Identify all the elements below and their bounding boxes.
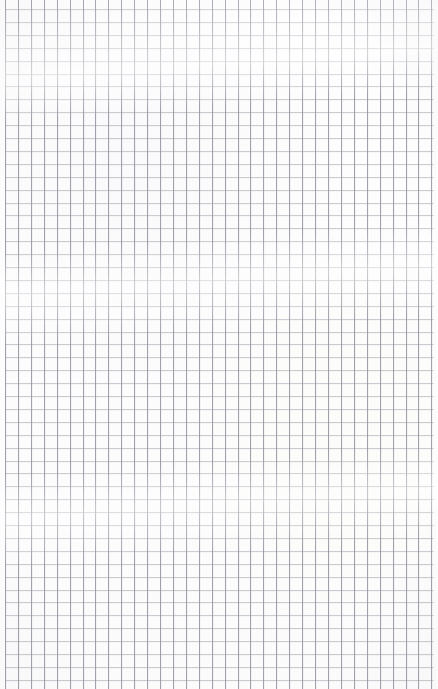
right-paper-margin	[433, 0, 438, 689]
graph-paper-image	[0, 0, 438, 689]
left-paper-margin	[0, 0, 5, 689]
grid-ruling-bleed	[0, 0, 438, 689]
top-unruled-strip	[0, 0, 438, 9]
